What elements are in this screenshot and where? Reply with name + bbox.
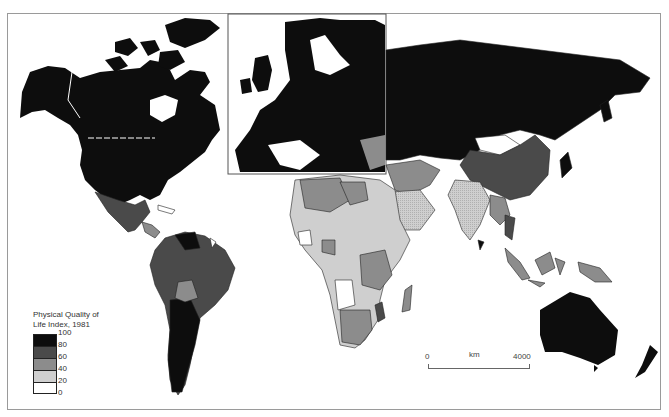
legend-swatch-40-60 <box>33 358 57 370</box>
south-america <box>150 232 235 395</box>
oceania <box>540 292 658 378</box>
legend-swatch-0-20 <box>33 382 57 394</box>
legend: Physical Quality of Life Index, 1981 100… <box>33 310 123 330</box>
world-map <box>0 0 669 417</box>
legend-swatch-80-100 <box>33 334 57 346</box>
africa <box>290 175 412 348</box>
southeast-asia <box>505 248 612 287</box>
europe-inset <box>228 14 386 174</box>
legend-swatches <box>33 334 57 394</box>
caribbean <box>158 205 175 214</box>
scale-bar: 0 km 4000 <box>425 350 535 380</box>
scale-line <box>428 364 530 369</box>
legend-swatch-60-80 <box>33 346 57 358</box>
legend-swatch-20-40 <box>33 370 57 382</box>
north-america <box>20 18 220 205</box>
legend-title: Physical Quality of Life Index, 1981 <box>33 310 123 330</box>
